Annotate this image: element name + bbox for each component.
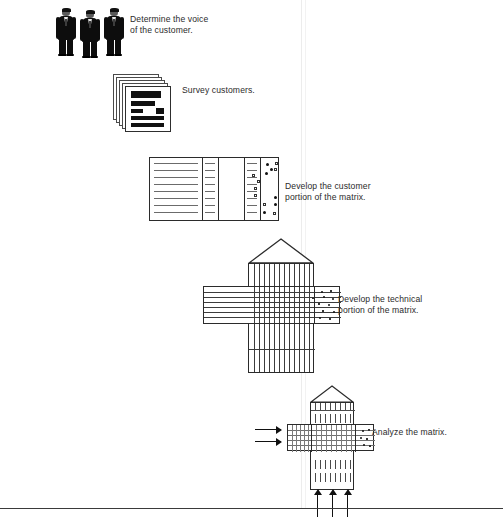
step-3-caption: Develop the customer portion of the matr… (285, 181, 400, 203)
businessman-figure (104, 8, 124, 56)
analyze-matrix-icon (255, 385, 370, 508)
step-2-caption: Survey customers. (182, 85, 302, 96)
input-arrow-bottom (347, 495, 348, 517)
relationship-marks (262, 158, 280, 222)
bottom-rule (0, 508, 503, 509)
input-arrow-left (255, 429, 281, 430)
roof-triangle (248, 238, 314, 264)
step-4-caption: Develop the technical portion of the mat… (338, 294, 458, 316)
input-arrow-bottom (332, 495, 333, 517)
step-1-caption: Determine the voice of the customer. (130, 14, 260, 36)
mini-customer-band (287, 424, 374, 451)
businessman-figure (80, 10, 100, 58)
businessman-figure (56, 8, 76, 56)
input-arrow-left (255, 441, 281, 442)
customer-rows-band (203, 286, 340, 324)
customer-matrix-icon (149, 157, 279, 221)
mini-roof-triangle (310, 385, 354, 403)
house-of-quality-icon (200, 238, 345, 373)
diagram-canvas: Determine the voice of the customer. Sur… (0, 0, 503, 520)
survey-documents-icon (113, 74, 175, 130)
input-arrow-bottom (317, 495, 318, 517)
step-5-caption: Analyze the matrix. (372, 427, 487, 438)
